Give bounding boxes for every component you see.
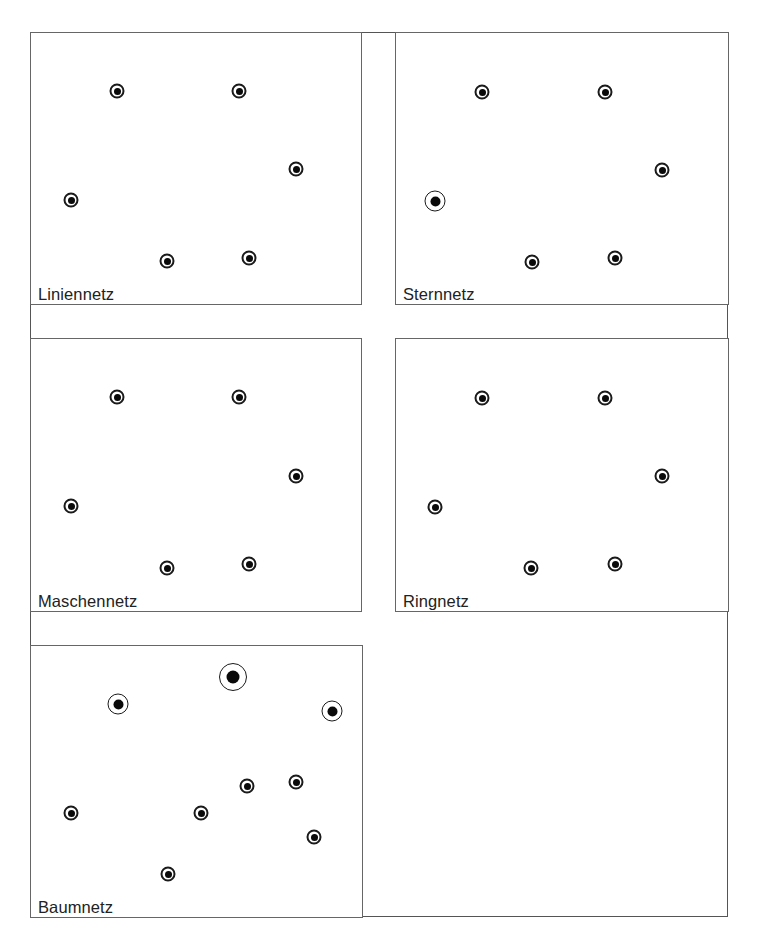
network-node-icon bbox=[289, 469, 304, 484]
panel-label: Ringnetz bbox=[403, 593, 469, 610]
node-core-dot bbox=[311, 834, 318, 841]
network-node-icon bbox=[219, 663, 247, 691]
node-core-dot bbox=[165, 871, 172, 878]
panel-liniennetz: Liniennetz bbox=[30, 32, 362, 305]
node-core-dot bbox=[293, 166, 300, 173]
node-core-dot bbox=[236, 88, 243, 95]
node-core-dot bbox=[164, 565, 171, 572]
panel-baumnetz: Baumnetz bbox=[30, 645, 363, 918]
node-core-dot bbox=[293, 473, 300, 480]
network-node-icon bbox=[598, 391, 613, 406]
network-node-icon bbox=[242, 557, 257, 572]
node-core-dot bbox=[227, 671, 240, 684]
network-node-icon bbox=[289, 162, 304, 177]
network-node-icon bbox=[598, 85, 613, 100]
node-core-dot bbox=[528, 565, 535, 572]
network-node-icon bbox=[608, 557, 623, 572]
panel-label: Sternnetz bbox=[403, 286, 475, 303]
network-node-icon bbox=[425, 191, 446, 212]
network-node-icon bbox=[525, 255, 540, 270]
network-node-icon bbox=[160, 254, 175, 269]
panel-label: Maschennetz bbox=[38, 593, 137, 610]
network-node-icon bbox=[64, 806, 79, 821]
node-core-dot bbox=[164, 258, 171, 265]
panel-label: Baumnetz bbox=[38, 899, 113, 916]
node-core-dot bbox=[602, 89, 609, 96]
network-node-icon bbox=[428, 500, 443, 515]
panel-ringnetz: Ringnetz bbox=[395, 338, 729, 612]
network-node-icon bbox=[232, 390, 247, 405]
network-node-icon bbox=[655, 469, 670, 484]
network-node-icon bbox=[608, 251, 623, 266]
network-node-icon bbox=[108, 694, 129, 715]
node-core-dot bbox=[612, 255, 619, 262]
panel-maschennetz: Maschennetz bbox=[30, 338, 362, 612]
node-core-dot bbox=[479, 89, 486, 96]
network-node-icon bbox=[161, 867, 176, 882]
node-core-dot bbox=[246, 561, 253, 568]
network-node-icon bbox=[322, 701, 343, 722]
node-core-dot bbox=[113, 699, 123, 709]
node-core-dot bbox=[479, 395, 486, 402]
node-core-dot bbox=[114, 394, 121, 401]
network-node-icon bbox=[194, 806, 209, 821]
network-node-icon bbox=[240, 779, 255, 794]
network-node-icon bbox=[110, 390, 125, 405]
node-core-dot bbox=[68, 197, 75, 204]
network-node-icon bbox=[475, 85, 490, 100]
network-node-icon bbox=[232, 84, 247, 99]
network-node-icon bbox=[475, 391, 490, 406]
node-core-dot bbox=[293, 779, 300, 786]
node-core-dot bbox=[612, 561, 619, 568]
node-core-dot bbox=[236, 394, 243, 401]
node-core-dot bbox=[659, 473, 666, 480]
node-core-dot bbox=[68, 503, 75, 510]
node-core-dot bbox=[246, 255, 253, 262]
node-core-dot bbox=[68, 810, 75, 817]
network-node-icon bbox=[160, 561, 175, 576]
network-node-icon bbox=[655, 163, 670, 178]
network-node-icon bbox=[64, 499, 79, 514]
node-core-dot bbox=[244, 783, 251, 790]
network-node-icon bbox=[110, 84, 125, 99]
network-node-icon bbox=[524, 561, 539, 576]
node-core-dot bbox=[327, 706, 337, 716]
node-core-dot bbox=[529, 259, 536, 266]
node-core-dot bbox=[430, 196, 440, 206]
node-core-dot bbox=[114, 88, 121, 95]
node-core-dot bbox=[198, 810, 205, 817]
network-node-icon bbox=[64, 193, 79, 208]
node-core-dot bbox=[659, 167, 666, 174]
network-node-icon bbox=[242, 251, 257, 266]
node-core-dot bbox=[602, 395, 609, 402]
node-core-dot bbox=[432, 504, 439, 511]
network-node-icon bbox=[289, 775, 304, 790]
network-node-icon bbox=[307, 830, 322, 845]
panel-label: Liniennetz bbox=[38, 286, 114, 303]
panel-sternnetz: Sternnetz bbox=[395, 32, 729, 305]
